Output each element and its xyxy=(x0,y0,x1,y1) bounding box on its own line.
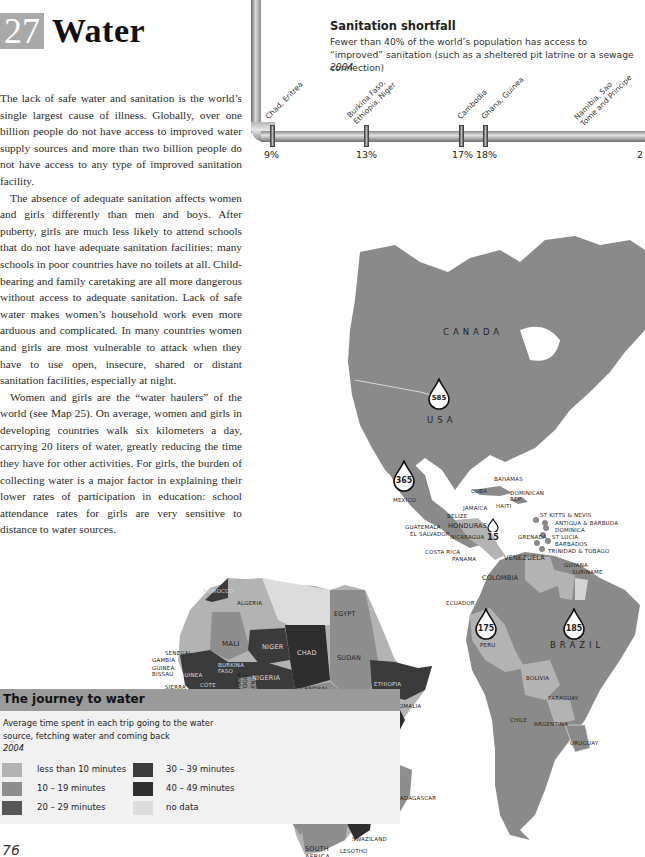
label-dominican-rep: DOMINICAN REP. xyxy=(510,490,544,502)
legend-label: 30 – 39 minutes xyxy=(166,764,234,774)
drop-brazil: 185 xyxy=(562,608,586,640)
legend-label: less than 10 minutes xyxy=(37,764,126,774)
sanitation-description: Fewer than 40% of the world’s population… xyxy=(330,35,640,74)
legend-swatch xyxy=(2,782,22,796)
label-haiti: HAITI xyxy=(496,503,512,509)
legend-label: 40 – 49 minutes xyxy=(166,783,234,793)
joint-percent: 2 xyxy=(637,149,643,160)
label-madagascar: MADAGASCAR xyxy=(395,795,436,801)
legend-swatch xyxy=(133,801,153,815)
drop-mexico: 365 xyxy=(392,460,416,492)
label-usa: USA xyxy=(427,415,457,425)
label-brazil: BRAZIL xyxy=(550,640,604,650)
label-nigeria: NIGERIA xyxy=(252,674,280,682)
label-grenada: GRENADA xyxy=(518,534,547,540)
label-mali: MALI xyxy=(222,640,240,648)
label-lesotho: LESOTHO xyxy=(340,848,368,854)
label-guatemala: GUATEMALA xyxy=(405,524,441,530)
sanitation-year: 2004 xyxy=(330,61,353,72)
label-peru: PERU xyxy=(480,642,495,648)
pipe-vertical xyxy=(251,0,261,133)
label-chile: CHILE xyxy=(510,717,527,723)
legend-year: 2004 xyxy=(3,743,24,753)
label-bahamas: BAHAMAS xyxy=(494,476,523,482)
label-honduras: HONDURAS xyxy=(448,522,487,530)
label-panama: PANAMA xyxy=(452,556,476,562)
label-chad: CHAD xyxy=(297,649,317,657)
label-st-lucia: ST LUCIA xyxy=(552,534,578,540)
label-swaziland: SWAZILAND xyxy=(352,836,387,842)
label-belize: BELIZE xyxy=(447,513,467,519)
pipe-joint xyxy=(364,125,369,147)
drop-caribbean: 15 xyxy=(487,518,499,544)
joint-percent: 17% xyxy=(452,149,473,160)
label-el-salvador: EL SALVADOR xyxy=(410,531,450,537)
pipe-joint xyxy=(483,125,488,147)
label-argentina: ARGENTINA xyxy=(534,721,568,727)
label-senegal: SENEGAL xyxy=(165,650,192,656)
label-guyana: GUYANA xyxy=(564,562,588,568)
label-ethiopia: ETHIOPIA xyxy=(374,681,401,687)
label-suriname: SURINAME xyxy=(572,569,603,575)
page-number: 76 xyxy=(2,842,20,857)
label-guinea: GUINEA xyxy=(180,672,202,678)
joint-percent: 13% xyxy=(356,149,377,160)
pipe-joint xyxy=(270,125,275,147)
map-north-america xyxy=(348,236,645,490)
label-algeria: ALGERIA xyxy=(237,600,262,606)
label-jamaica: JAMAICA xyxy=(463,505,487,511)
legend-swatch xyxy=(2,801,22,815)
water-drop-icon xyxy=(487,518,499,532)
legend-swatch xyxy=(133,763,153,777)
legend-label: 10 – 19 minutes xyxy=(37,783,105,793)
label-niger: NIGER xyxy=(262,643,283,651)
sanitation-title: Sanitation shortfall xyxy=(330,19,456,33)
legend-swatch xyxy=(133,782,153,796)
label-ecuador: ECUADOR xyxy=(446,600,475,606)
label-barbados: BARBADOS xyxy=(555,541,588,547)
label-guinea-bissau: GUINEA BISSAU xyxy=(152,665,178,677)
label-st-kitts: ST KITTS & NEVIS xyxy=(540,512,591,518)
label-colombia: COLOMBIA xyxy=(482,574,518,582)
label-costa-rica: COSTA RICA xyxy=(425,549,460,555)
label-morocco: MOROCCO xyxy=(203,588,234,594)
pipe-horizontal xyxy=(261,131,645,142)
legend-label: no data xyxy=(166,802,198,812)
label-uruguay: URUGUAY xyxy=(570,740,598,746)
label-nicaragua: NICARAGUA xyxy=(450,534,484,540)
label-egypt: EGYPT xyxy=(334,610,356,618)
legend-swatch xyxy=(2,763,22,777)
legend-label: 20 – 29 minutes xyxy=(37,802,105,812)
label-venezuela: VENEZUELA xyxy=(504,554,545,562)
label-south-africa: SOUTH AFRICA xyxy=(305,845,335,857)
legend-title: The journey to water xyxy=(3,692,145,706)
label-gambia: GAMBIA xyxy=(152,657,175,663)
joint-percent: 18% xyxy=(476,149,497,160)
label-burkina-faso: BURKINA FASO xyxy=(218,662,246,674)
joint-percent: 9% xyxy=(264,149,279,160)
drop-peru: 175 xyxy=(474,608,498,640)
label-trinidad: TRINIDAD & TOBAGO xyxy=(548,548,610,554)
label-antigua: ANTIGUA & BARBUDA xyxy=(555,520,618,526)
label-canada: CANADA xyxy=(443,327,503,337)
pipe-joint xyxy=(459,125,464,147)
label-sudan: SUDAN xyxy=(337,654,361,662)
legend-description: Average time spent in each trip going to… xyxy=(3,717,243,743)
label-dominica: DOMINICA xyxy=(555,527,585,533)
label-cuba: CUBA xyxy=(471,488,487,494)
drop-usa: 585 xyxy=(427,378,451,410)
label-mexico: MEXICO xyxy=(393,497,416,503)
label-paraguay: PARAGUAY xyxy=(548,695,579,701)
label-bolivia: BOLIVIA xyxy=(526,675,549,681)
